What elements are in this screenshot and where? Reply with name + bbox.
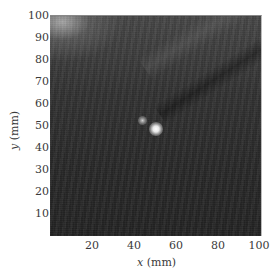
y-tick-label: 50: [19, 120, 49, 131]
y-tick-label: 100: [19, 10, 49, 21]
x-tick-label: 100: [244, 240, 274, 251]
x-axis-variable: x: [137, 256, 143, 269]
x-axis-label: x (mm): [137, 256, 176, 269]
x-tick-label: 60: [161, 240, 191, 251]
bright-spot-secondary: [138, 116, 147, 125]
y-tick-label: 40: [19, 142, 49, 153]
y-axis-label: y (mm): [8, 111, 21, 150]
y-tick-label: 10: [19, 208, 49, 219]
y-tick-label: 60: [19, 98, 49, 109]
y-tick-label: 90: [19, 32, 49, 43]
x-tick-label: 20: [77, 240, 107, 251]
y-tick-label: 20: [19, 186, 49, 197]
bright-spot-main: [149, 122, 163, 136]
y-tick-label: 30: [19, 164, 49, 175]
x-tick-label: 80: [203, 240, 233, 251]
figure: 100 90 80 70 60 50 40 30 20 10 20 40 60 …: [0, 0, 280, 275]
y-axis-variable: y: [8, 144, 21, 150]
intensity-image: [50, 15, 262, 236]
x-axis-unit: (mm): [147, 256, 176, 269]
y-tick-label: 70: [19, 76, 49, 87]
x-tick-label: 40: [119, 240, 149, 251]
y-tick-label: 80: [19, 54, 49, 65]
y-axis-unit: (mm): [8, 111, 21, 140]
